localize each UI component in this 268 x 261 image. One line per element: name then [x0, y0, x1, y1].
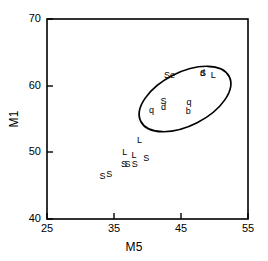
x-axis-title: M5: [0, 240, 268, 254]
y-tick-label: 50: [15, 145, 41, 157]
x-tick-label: 55: [233, 222, 263, 234]
data-point-label: q: [149, 106, 154, 115]
data-point-label: S: [100, 171, 106, 180]
data-point-label: S: [132, 160, 138, 169]
data-point-label: S: [200, 69, 206, 78]
data-point-label: b: [186, 107, 191, 116]
x-tick-label: 35: [99, 222, 129, 234]
data-point-label: Se: [164, 71, 175, 80]
x-tick-label: 45: [166, 222, 196, 234]
y-tick-label: 70: [15, 12, 41, 24]
data-point-label: L: [137, 136, 142, 145]
data-point-label: S: [143, 154, 149, 163]
data-point-label: S: [124, 160, 130, 169]
data-point-label: S: [106, 169, 112, 178]
data-point-label: d: [161, 103, 166, 112]
y-axis-title: M1: [7, 89, 21, 149]
data-point-label: L: [122, 148, 127, 157]
scatter-plot-figure: M5 M1 2535455540506070 SedSLSdqqbLLLSSSS…: [0, 0, 268, 261]
y-tick-label: 60: [15, 79, 41, 91]
data-point-label: L: [211, 71, 216, 80]
y-tick-label: 40: [15, 212, 41, 224]
